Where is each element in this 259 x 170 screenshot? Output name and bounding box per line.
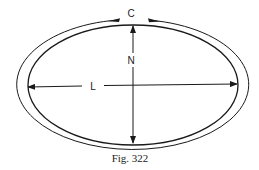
ellipse-diagram: C N L Fig. 322 [0, 0, 259, 170]
figure-caption: Fig. 322 [112, 152, 149, 164]
length-axis-left [28, 86, 82, 87]
label-l: L [90, 81, 96, 92]
circumference-arrow-right [148, 18, 160, 22]
label-c: C [127, 8, 134, 19]
circumference-arrow-left [108, 18, 120, 22]
length-axis-right [104, 84, 237, 86]
label-n: N [127, 55, 134, 66]
